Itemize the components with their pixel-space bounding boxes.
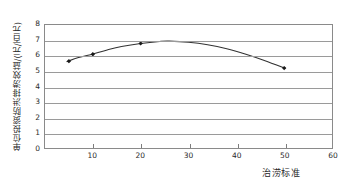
series-line xyxy=(67,41,285,68)
x-tick-mark xyxy=(93,144,94,148)
y-tick-label: 2 xyxy=(27,114,40,122)
gridline xyxy=(45,119,332,120)
y-tick-label: 0 xyxy=(27,145,40,153)
x-tick-label: 40 xyxy=(225,151,249,161)
plot-area xyxy=(44,24,333,149)
x-axis-title: 治涝标准 xyxy=(235,166,327,179)
y-tick-label: 7 xyxy=(27,36,40,44)
y-axis-tick-labels: 012345678 xyxy=(27,19,40,153)
y-tick-label: 3 xyxy=(27,98,40,106)
x-tick-label: 30 xyxy=(177,151,201,161)
x-tick-mark xyxy=(190,144,191,148)
y-axis-title: 单位投资防洪排涝效益/(元/百元) xyxy=(10,12,26,162)
x-tick-label: 20 xyxy=(128,151,152,161)
gridline xyxy=(45,56,332,57)
x-tick-label: 10 xyxy=(80,151,104,161)
gridline xyxy=(45,41,332,42)
y-tick-label: 1 xyxy=(27,129,40,137)
chart-figure: 单位投资防洪排涝效益/(元/百元) 012345678 102030405060… xyxy=(0,0,347,189)
y-tick-label: 8 xyxy=(27,20,40,28)
y-tick-label: 5 xyxy=(27,67,40,75)
x-tick-mark xyxy=(238,144,239,148)
y-tick-label: 4 xyxy=(27,83,40,91)
data-point-marker xyxy=(67,59,71,63)
x-axis-tick-labels: 102030405060 xyxy=(44,151,333,163)
y-axis-title-text: 单位投资防洪排涝效益/(元/百元) xyxy=(14,22,23,151)
gridline xyxy=(45,88,332,89)
data-series-curve xyxy=(45,25,332,148)
gridline xyxy=(45,134,332,135)
x-tick-label: 60 xyxy=(321,151,345,161)
x-tick-label: 50 xyxy=(273,151,297,161)
gridline xyxy=(45,72,332,73)
y-tick-label: 6 xyxy=(27,51,40,59)
x-tick-mark xyxy=(141,144,142,148)
x-tick-mark xyxy=(286,144,287,148)
gridline xyxy=(45,103,332,104)
data-point-marker xyxy=(282,66,286,70)
